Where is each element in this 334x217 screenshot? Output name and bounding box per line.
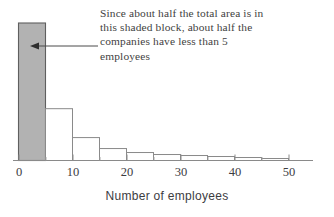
bar-25-30 xyxy=(154,155,181,161)
bar-5-10 xyxy=(46,109,73,161)
annotation-line-2: this shaded block, about half the xyxy=(100,20,328,34)
bar-35-40 xyxy=(208,157,235,161)
bar-20-25 xyxy=(127,153,154,161)
bar-30-35 xyxy=(181,156,208,161)
x-tick-label-40: 40 xyxy=(229,165,242,180)
shaded-block-annotation: Since about half the total area is in th… xyxy=(100,6,328,63)
x-tick-label-20: 20 xyxy=(121,165,134,180)
annotation-line-4: employees xyxy=(100,49,328,63)
annotation-line-3: companies have less than 5 xyxy=(100,34,328,48)
x-axis-title: Number of employees xyxy=(0,189,334,203)
x-tick-label-50: 50 xyxy=(283,165,296,180)
bar-10-15 xyxy=(73,138,100,161)
histogram-figure: 0 10 20 30 40 50 Number of employees Sin… xyxy=(0,0,334,217)
x-tick-label-0: 0 xyxy=(16,165,22,180)
x-tick-label-30: 30 xyxy=(175,165,188,180)
annotation-line-1: Since about half the total area is in xyxy=(100,6,328,20)
x-tick-label-10: 10 xyxy=(67,165,80,180)
bar-15-20 xyxy=(100,149,127,161)
bar-shaded-0-5 xyxy=(19,23,46,161)
